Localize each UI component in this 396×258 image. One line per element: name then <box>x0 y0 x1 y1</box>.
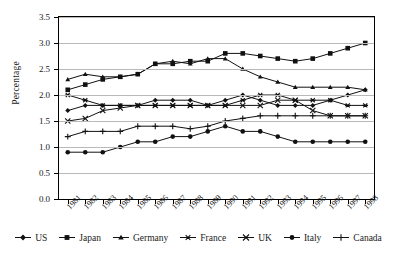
data-point-circle <box>240 129 245 134</box>
data-point-plus <box>170 123 176 129</box>
data-point-plus <box>65 134 71 140</box>
data-point-plus <box>310 113 316 119</box>
legend-item-france[interactable]: France <box>179 232 226 243</box>
data-point-square <box>83 82 88 87</box>
legend-label: France <box>200 233 226 243</box>
gridline <box>59 43 374 44</box>
data-point-circle <box>83 150 88 155</box>
data-point-circle <box>363 140 368 145</box>
legend-label: Canada <box>353 233 382 243</box>
series-uk <box>65 98 368 124</box>
data-point-circle <box>223 124 228 129</box>
y-tick-label: 2.5 <box>24 65 50 74</box>
y-tick-label: 1.5 <box>24 117 50 126</box>
legend-item-canada[interactable]: Canada <box>332 232 382 243</box>
data-point-circle <box>188 134 193 139</box>
series-line <box>68 126 366 152</box>
series-line <box>68 95 366 105</box>
y-tick-label: 0.5 <box>24 169 50 178</box>
gridline <box>59 121 374 122</box>
data-point-diamond <box>20 235 26 241</box>
plot-area <box>58 16 375 200</box>
series-germany <box>65 56 367 91</box>
legend-marker-circle-icon <box>283 232 301 243</box>
data-point-asterisk <box>82 98 88 102</box>
data-point-square <box>258 54 263 59</box>
series-line <box>68 59 366 90</box>
data-point-asterisk <box>240 98 246 102</box>
data-point-plus <box>205 123 211 129</box>
legend-marker-plus-icon <box>332 232 350 243</box>
data-point-square <box>328 51 333 56</box>
legend-marker-cross-icon <box>237 232 255 243</box>
data-point-circle <box>153 140 158 145</box>
data-point-circle <box>135 140 140 145</box>
data-point-square <box>310 56 315 61</box>
data-point-square <box>240 51 245 56</box>
data-point-plus <box>82 128 88 134</box>
series-japan <box>65 41 367 92</box>
y-tick-label: 2.0 <box>24 91 50 100</box>
data-point-plus <box>117 128 123 134</box>
data-point-square <box>345 46 350 51</box>
data-point-circle <box>293 140 298 145</box>
data-point-triangle <box>83 72 88 76</box>
data-point-asterisk <box>185 235 191 240</box>
legend-label: US <box>35 233 47 243</box>
gridline <box>59 147 374 148</box>
y-tick-label: 3.5 <box>24 13 50 22</box>
data-point-circle <box>258 129 263 134</box>
legend-label: Japan <box>79 233 101 243</box>
legend-label: Germany <box>133 233 168 243</box>
data-point-plus <box>257 113 263 119</box>
series-italy <box>65 124 367 155</box>
chart-legend: USJapanGermanyFranceUKItalyCanada <box>0 232 396 243</box>
data-point-diamond <box>170 98 175 103</box>
data-point-square <box>223 51 228 56</box>
data-point-diamond <box>153 98 158 103</box>
data-point-cross <box>310 108 315 113</box>
legend-marker-diamond-icon <box>14 232 32 243</box>
data-point-plus <box>338 234 345 241</box>
data-point-circle <box>205 129 210 134</box>
data-point-diamond <box>65 108 70 113</box>
data-point-diamond <box>223 98 228 103</box>
data-point-plus <box>152 123 158 129</box>
gridline <box>59 173 374 174</box>
data-point-diamond <box>310 103 315 108</box>
series-layer <box>59 17 374 199</box>
line-chart: Percentage 0.00.51.01.52.02.53.03.5 1981… <box>0 0 396 258</box>
data-point-circle <box>290 235 295 240</box>
gridline <box>59 17 374 18</box>
data-point-asterisk <box>345 103 351 107</box>
data-point-square <box>293 59 298 64</box>
data-point-diamond <box>275 103 280 108</box>
legend-item-japan[interactable]: Japan <box>58 232 101 243</box>
data-point-circle <box>275 134 280 139</box>
data-point-circle <box>345 140 350 145</box>
y-axis-title: Percentage <box>11 37 21 129</box>
legend-marker-asterisk-icon <box>179 232 197 243</box>
legend-item-italy[interactable]: Italy <box>283 232 321 243</box>
legend-marker-triangle-icon <box>112 232 130 243</box>
data-point-circle <box>328 140 333 145</box>
data-point-plus <box>135 123 141 129</box>
legend-item-uk[interactable]: UK <box>237 232 272 243</box>
data-point-plus <box>292 113 298 119</box>
data-point-square <box>65 235 70 240</box>
legend-item-us[interactable]: US <box>14 232 47 243</box>
legend-item-germany[interactable]: Germany <box>112 232 168 243</box>
data-point-diamond <box>258 98 263 103</box>
data-point-diamond <box>293 103 298 108</box>
data-point-circle <box>310 140 315 145</box>
legend-label: UK <box>258 233 272 243</box>
data-point-diamond <box>83 103 88 108</box>
data-point-square <box>65 88 70 93</box>
data-point-triangle <box>170 59 175 63</box>
legend-label: Italy <box>304 233 321 243</box>
data-point-square <box>275 56 280 61</box>
data-point-diamond <box>188 98 193 103</box>
data-point-asterisk <box>362 103 368 107</box>
y-tick-label: 1.0 <box>24 143 50 152</box>
gridline <box>59 69 374 70</box>
